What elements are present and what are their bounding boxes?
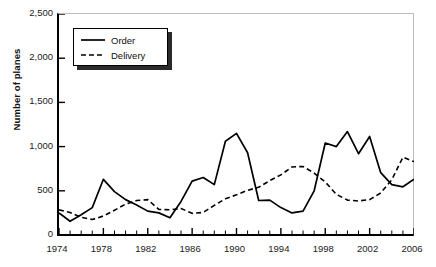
legend-swatch-dashed-icon [80, 50, 106, 60]
y-axis-tick-2500: 2,500 [3, 8, 53, 18]
x-axis-tick-1974: 1974 [35, 243, 79, 254]
y-axis-tick-2000: 2,000 [3, 52, 53, 62]
x-axis-tick-1982: 1982 [124, 243, 168, 254]
x-axis-tick-1994: 1994 [257, 243, 301, 254]
x-axis-tick-2006: 2006 [390, 243, 434, 254]
x-axis-tick-1998: 1998 [301, 243, 345, 254]
y-axis-tick-500: 500 [3, 185, 53, 195]
y-axis-tick-labels: 05001,0001,5002,0002,500 [0, 0, 53, 267]
x-axis-tick-labels: 197419781982198619901994199820022006 [0, 243, 436, 263]
y-axis-tick-1500: 1,500 [3, 96, 53, 106]
legend-box: Order Delivery [73, 28, 168, 66]
x-axis-tick-1990: 1990 [213, 243, 257, 254]
chart-figure: Number of planes 05001,0001,5002,0002,50… [0, 0, 436, 267]
legend-entry-order: Order [80, 33, 135, 47]
legend-label-delivery: Delivery [111, 50, 145, 61]
x-axis-tick-1978: 1978 [79, 243, 123, 254]
series-line-order [59, 132, 414, 222]
x-axis-tick-2002: 2002 [346, 243, 390, 254]
y-axis-tick-1000: 1,000 [3, 141, 53, 151]
x-axis-tick-1986: 1986 [168, 243, 212, 254]
chart-legend: Order Delivery [73, 28, 168, 66]
legend-label-order: Order [111, 35, 135, 46]
y-axis-tick-0: 0 [3, 229, 53, 239]
legend-swatch-solid-icon [80, 35, 106, 45]
legend-entry-delivery: Delivery [80, 48, 145, 62]
x-axis-minor-ticks [59, 228, 414, 235]
y-axis-tick-marks [59, 14, 65, 191]
